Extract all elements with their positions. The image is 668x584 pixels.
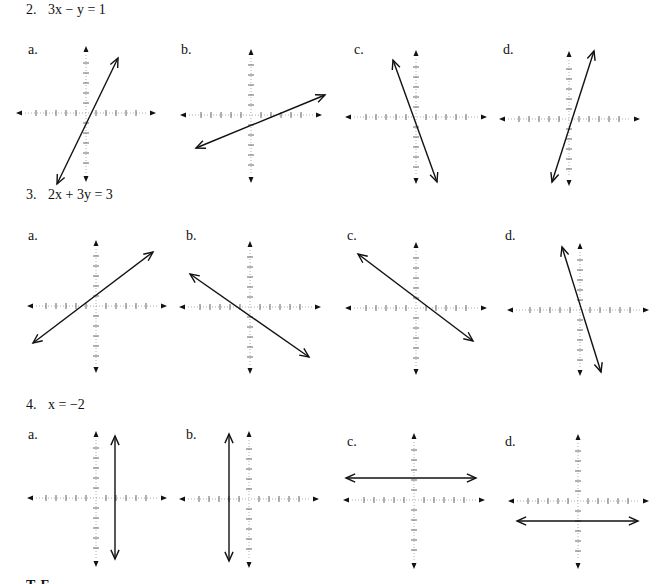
graph-4b [179,431,319,568]
graph-2c [345,50,487,184]
graph-3a [27,240,167,373]
footer-cutoff-text: T F ... [26,578,68,584]
graph-3d [507,243,649,376]
graph-2b [180,49,325,183]
graph-4c [343,433,485,569]
graph-3b [179,241,321,374]
graph-2a [16,46,156,184]
graph-4d [508,434,649,569]
graph-2d [499,51,640,186]
graph-3c [345,242,487,375]
graph-4a [27,431,167,567]
coordinate-graphs [0,0,668,584]
